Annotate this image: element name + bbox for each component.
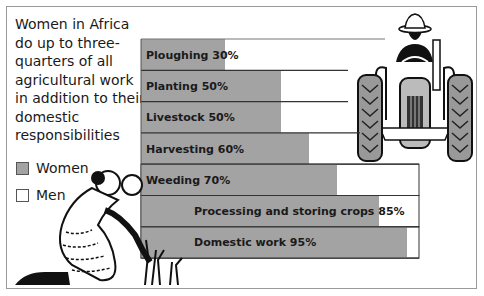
bar-label: Processing and storing crops 85% (194, 205, 405, 218)
bar-row-processing-and-storing-crops: Processing and storing crops 85% (141, 196, 419, 227)
bar-row-weeding: Weeding 70% (141, 164, 419, 195)
bar-label: Weeding 70% (146, 174, 230, 187)
bar-row-livestock: Livestock 50% (141, 102, 348, 133)
tractor-farmer-illustration (358, 14, 472, 161)
tractor-wheel-right (448, 75, 472, 161)
bar-row-ploughing: Ploughing 30% (141, 39, 385, 70)
bar-row-planting: Planting 50% (141, 70, 348, 101)
bar-label: Planting 50% (146, 80, 228, 93)
farmer-hat-icon (399, 14, 431, 33)
tractor-wheel-left (358, 75, 382, 161)
bar-label: Livestock 50% (146, 111, 235, 124)
bar-row-harvesting: Harvesting 60% (141, 133, 360, 164)
bar-label: Harvesting 60% (146, 143, 244, 156)
bar-label: Domestic work 95% (194, 236, 316, 249)
bar-chart: Ploughing 30%Planting 50%Livestock 50%Ha… (0, 0, 484, 296)
bar-label: Ploughing 30% (146, 49, 239, 62)
bar-row-domestic-work: Domestic work 95% (141, 227, 419, 258)
